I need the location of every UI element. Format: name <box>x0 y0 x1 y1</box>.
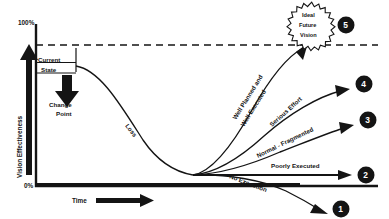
change-point-label-line1: Change <box>49 101 72 108</box>
marker-badge-4: 4 <box>356 76 373 93</box>
axis-lines <box>36 24 378 186</box>
right-arrow-glyph <box>96 194 154 207</box>
ideal-vision-label-line3: Vision <box>300 32 317 38</box>
diagram-canvas: 100% 0% Vision Effectiveness Time Curren… <box>0 0 389 219</box>
change-point-label-line2: Point <box>56 110 71 117</box>
ideal-vision-label-line2: Future <box>299 22 316 28</box>
time-arrow-icon <box>96 194 154 207</box>
current-state-label-line2: State <box>41 66 57 73</box>
marker-number-5: 5 <box>343 20 348 30</box>
y-axis-top-tick-label: 100% <box>18 19 35 26</box>
y-axis-bottom-tick-label: 0% <box>24 182 34 189</box>
loss-curve <box>76 66 193 175</box>
ideal-future-vision-badge: Ideal Future Vision <box>287 2 335 51</box>
marker-badge-1: 1 <box>333 201 350 218</box>
normal-fragmented-arrowhead <box>339 122 354 134</box>
loss-label: Loss <box>124 122 139 138</box>
marker-number-4: 4 <box>361 79 366 89</box>
marker-badge-5: 5 <box>338 17 355 34</box>
x-axis-title: Time <box>72 197 87 204</box>
marker-badge-3: 3 <box>360 112 377 129</box>
vision-effectiveness-diagram: 100% 0% Vision Effectiveness Time Curren… <box>0 0 389 219</box>
y-axis-title: Vision Effectiveness <box>16 116 23 178</box>
poorly-executed-label: Poorly Executed <box>271 162 320 169</box>
axis-path <box>36 24 378 186</box>
serious-effort-arrowhead <box>335 85 350 97</box>
marker-number-1: 1 <box>338 204 343 214</box>
ideal-vision-label-line1: Ideal <box>302 12 315 18</box>
current-state-label-line1: Current <box>38 56 60 63</box>
marker-number-3: 3 <box>365 115 370 125</box>
poorly-executed-arrowhead <box>338 170 352 180</box>
no-execution-curve <box>193 175 320 210</box>
serious-effort-label: Serious Effort <box>268 95 303 128</box>
marker-badge-2: 2 <box>358 167 375 184</box>
marker-number-2: 2 <box>363 170 368 180</box>
